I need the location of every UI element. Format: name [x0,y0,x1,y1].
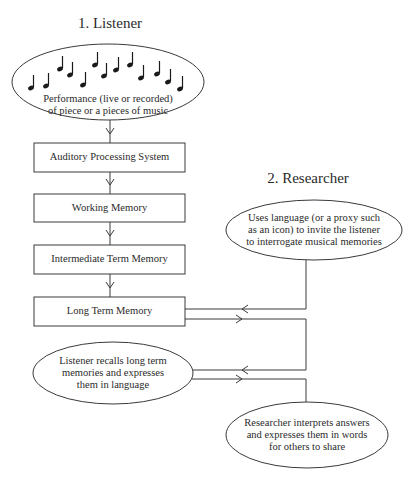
recall-label: Listener recalls long term memories and … [43,355,183,391]
invite-line-1: Uses language (or a proxy such [234,212,394,224]
connector-longterm-to-recall [185,315,306,374]
connector-working-to-intermediate [106,222,114,245]
invite-label: Uses language (or a proxy such as an ico… [234,212,394,248]
invite-line-2: as an icon) to invite the listener [234,224,394,236]
interpret-label: Researcher interprets answers and expres… [232,417,382,453]
performance-line-2: of piece or a pieces of music [28,105,188,117]
box-label-working: Working Memory [34,202,185,213]
connector-intermediate-to-longterm [106,274,114,297]
performance-label: Performance (live or recorded) of piece … [28,93,188,117]
box-label-intermediate: Intermediate Term Memory [34,253,185,264]
performance-line-1: Performance (live or recorded) [28,93,188,105]
connector-recall-to-interpret [192,375,306,402]
recall-line-2: memories and expresses [43,367,183,379]
interpret-line-2: and expresses them in words [232,429,382,441]
connector-aps-to-working [106,172,114,194]
listener-section-title: 1. Listener [60,15,160,32]
connector-invite-to-longterm [185,260,306,313]
interpret-line-1: Researcher interprets answers [232,417,382,429]
invite-line-3: to interrogate musical memories [234,236,394,248]
interpret-line-3: for others to share [232,441,382,453]
recall-line-1: Listener recalls long term [43,355,183,367]
box-label-longterm: Long Term Memory [34,305,185,316]
connector-performance-to-aps [106,120,114,143]
box-label-auditory: Auditory Processing System [34,151,185,162]
researcher-section-title: 2. Researcher [248,170,368,187]
recall-line-3: them in language [43,379,183,391]
